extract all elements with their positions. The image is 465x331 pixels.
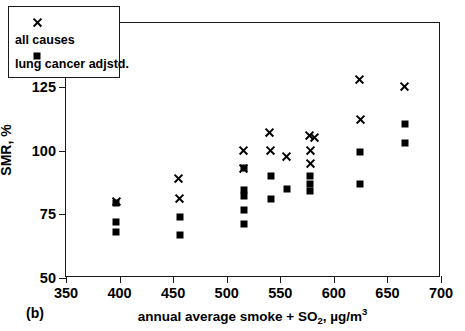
legend-entry <box>9 17 119 29</box>
data-point-square <box>356 180 363 187</box>
data-point-square <box>113 229 120 236</box>
data-point-square <box>307 173 314 180</box>
x-tick <box>227 276 228 283</box>
x-axis-label: annual average smoke + SO2, µg/m3 <box>65 306 440 326</box>
panel-label: (b) <box>26 305 44 321</box>
y-tick-label: 100 <box>32 143 56 159</box>
y-tick-label: 125 <box>32 79 56 95</box>
data-point-square <box>240 221 247 228</box>
data-point-cross <box>399 81 410 92</box>
data-point-square <box>267 195 274 202</box>
legend-label: lung cancer adjstd. <box>15 57 125 71</box>
data-point-cross <box>265 145 276 156</box>
x-tick-label: 550 <box>268 285 292 301</box>
data-point-cross <box>174 193 185 204</box>
y-tick-label: 50 <box>40 270 56 286</box>
x-tick-label: 400 <box>107 285 131 301</box>
x-tick <box>387 276 388 283</box>
data-point-square <box>307 188 314 195</box>
data-point-square <box>240 207 247 214</box>
legend-box: all causeslung cancer adjstd. <box>8 6 120 78</box>
data-point-cross <box>355 114 366 125</box>
data-point-square <box>283 185 290 192</box>
x-tick-label: 450 <box>161 285 185 301</box>
data-point-square <box>401 139 408 146</box>
y-tick <box>59 151 66 152</box>
data-point-square <box>356 148 363 155</box>
data-point-square <box>113 199 120 206</box>
data-point-square <box>307 180 314 187</box>
y-tick <box>59 214 66 215</box>
data-point-cross <box>309 132 320 143</box>
y-tick-label: 75 <box>40 206 56 222</box>
data-point-cross <box>305 158 316 169</box>
data-point-square <box>401 120 408 127</box>
legend-label: all causes <box>15 33 125 47</box>
data-point-cross <box>238 145 249 156</box>
x-tick <box>120 276 121 283</box>
x-tick <box>173 276 174 283</box>
data-point-square <box>240 165 247 172</box>
y-axis-label-text: SMR, % <box>0 124 14 175</box>
x-axis-label-sup: 3 <box>362 306 367 317</box>
data-point-square <box>176 213 183 220</box>
x-tick <box>280 276 281 283</box>
x-tick-label: 700 <box>429 285 453 301</box>
data-point-square <box>267 173 274 180</box>
data-point-square <box>176 231 183 238</box>
figure-panel-b: 5075100125150350400450500550600650700 SM… <box>0 0 465 331</box>
legend-cross-icon <box>32 17 43 28</box>
data-point-cross <box>264 127 275 138</box>
x-tick <box>334 276 335 283</box>
data-point-cross <box>281 151 292 162</box>
data-point-cross <box>305 145 316 156</box>
x-tick <box>441 276 442 283</box>
x-tick-label: 650 <box>375 285 399 301</box>
x-axis-label-prefix: annual average smoke + SO <box>138 309 318 324</box>
data-point-cross <box>173 173 184 184</box>
x-axis-label-unit: µg/m <box>330 309 362 324</box>
x-tick-label: 350 <box>54 285 78 301</box>
x-tick <box>66 276 67 283</box>
data-point-square <box>240 193 247 200</box>
y-tick <box>59 87 66 88</box>
y-axis-label: SMR, % <box>0 124 14 175</box>
y-tick <box>59 278 66 279</box>
data-point-square <box>113 218 120 225</box>
x-tick-label: 500 <box>215 285 239 301</box>
data-point-cross <box>354 74 365 85</box>
x-tick-label: 600 <box>322 285 346 301</box>
